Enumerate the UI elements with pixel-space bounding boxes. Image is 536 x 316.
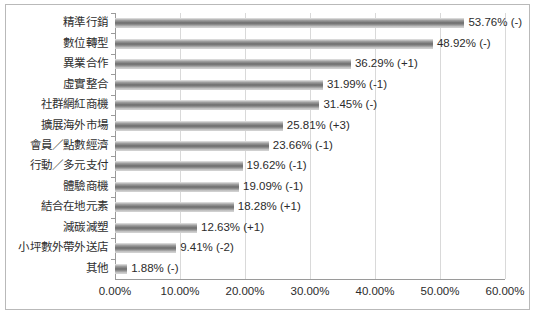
bar [115, 121, 283, 131]
category-label: 小坪數外帶外送店 [18, 243, 108, 255]
x-axis-tick-label: 0.00% [99, 286, 132, 298]
chart-row: 小坪數外帶外送店9.41% (-2) [115, 238, 505, 258]
bar-value-label: 48.92% (-) [437, 38, 491, 50]
bar-value-label: 23.66% (-1) [273, 140, 333, 152]
bar-value-label: 18.28% (+1) [238, 202, 301, 214]
chart-row: 會員／點數經濟23.66% (-1) [115, 136, 505, 156]
chart-row: 減碳減塑12.63% (+1) [115, 218, 505, 238]
bar-value-label: 12.63% (+1) [201, 222, 264, 234]
chart-row: 其他1.88% (-) [115, 259, 505, 279]
category-label: 精準行銷 [63, 17, 108, 29]
chart-row: 擴展海外市場25.81% (+3) [115, 115, 505, 135]
chart-row: 體驗商機19.09% (-1) [115, 177, 505, 197]
category-label: 結合在地元素 [41, 202, 108, 214]
chart-row: 異業合作36.29% (+1) [115, 54, 505, 74]
bar [115, 80, 323, 90]
y-axis-tick [111, 54, 115, 55]
chart-frame: 精準行銷53.76% (-)數位轉型48.92% (-)異業合作36.29% (… [5, 4, 530, 310]
y-axis-tick [111, 74, 115, 75]
bar-value-label: 19.62% (-1) [247, 161, 307, 173]
chart-row: 精準行銷53.76% (-) [115, 13, 505, 33]
bar [115, 141, 269, 151]
y-axis-tick [111, 115, 115, 116]
x-axis-tick-label: 20.00% [225, 286, 264, 298]
category-label: 其他 [86, 263, 108, 275]
x-axis-tick-label: 30.00% [290, 286, 329, 298]
category-label: 減碳減塑 [63, 222, 108, 234]
category-label: 虛實整合 [63, 79, 108, 91]
bar-value-label: 31.99% (-1) [327, 79, 387, 91]
bar [115, 18, 464, 28]
bar-value-label: 36.29% (+1) [355, 58, 418, 70]
chart-row: 社群網紅商機31.45% (-) [115, 95, 505, 115]
y-axis-tick [111, 13, 115, 14]
bar [115, 243, 176, 253]
category-label: 行動／多元支付 [30, 161, 108, 173]
bar [115, 100, 319, 110]
y-axis-tick [111, 218, 115, 219]
bar-value-label: 31.45% (-) [323, 99, 377, 111]
bar [115, 39, 433, 49]
y-axis-tick [111, 95, 115, 96]
category-label: 社群網紅商機 [41, 99, 108, 111]
gridline [505, 13, 506, 279]
bar [115, 223, 197, 233]
bar-value-label: 53.76% (-) [468, 17, 522, 29]
bar-value-label: 25.81% (+3) [287, 120, 350, 132]
chart-row: 行動／多元支付19.62% (-1) [115, 156, 505, 176]
category-label: 會員／點數經濟 [30, 140, 108, 152]
x-axis-line [115, 279, 505, 280]
y-axis-tick [111, 33, 115, 34]
x-axis-tick-label: 10.00% [160, 286, 199, 298]
chart-row: 結合在地元素18.28% (+1) [115, 197, 505, 217]
x-axis-tick-label: 50.00% [420, 286, 459, 298]
bar [115, 264, 127, 274]
y-axis-tick [111, 238, 115, 239]
x-axis-tick-label: 60.00% [485, 286, 524, 298]
bar [115, 59, 351, 69]
chart-row: 虛實整合31.99% (-1) [115, 74, 505, 94]
x-axis-tick-label: 40.00% [355, 286, 394, 298]
y-axis-tick [111, 177, 115, 178]
y-axis-tick [111, 197, 115, 198]
y-axis-tick [111, 156, 115, 157]
y-axis-tick [111, 136, 115, 137]
category-label: 擴展海外市場 [41, 120, 108, 132]
bar-value-label: 9.41% (-2) [180, 243, 234, 255]
category-label: 數位轉型 [63, 38, 108, 50]
y-axis-tick [111, 259, 115, 260]
category-label: 體驗商機 [63, 181, 108, 193]
bar-value-label: 1.88% (-) [131, 263, 178, 275]
bar [115, 161, 243, 171]
bar [115, 202, 234, 212]
plot-area: 精準行銷53.76% (-)數位轉型48.92% (-)異業合作36.29% (… [115, 13, 505, 279]
bar [115, 182, 239, 192]
category-label: 異業合作 [63, 58, 108, 70]
bar-value-label: 19.09% (-1) [243, 181, 303, 193]
chart-row: 數位轉型48.92% (-) [115, 33, 505, 53]
